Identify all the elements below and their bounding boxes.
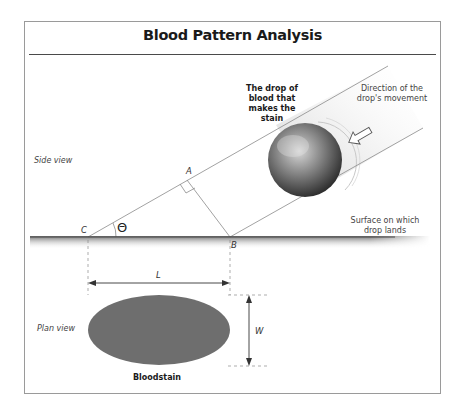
point-b-label: B: [231, 240, 237, 250]
width-dimension-arrow: [246, 295, 252, 366]
surface-label-line-2: drop lands: [345, 226, 425, 236]
sphere-highlight: [277, 135, 309, 157]
length-dimension-arrow: [88, 280, 230, 286]
drop-label-line-1: The drop of: [241, 84, 303, 94]
blood-drop-sphere: [268, 123, 342, 197]
drop-label-line-2: blood that: [241, 94, 303, 104]
surface-description: Surface on which drop lands: [345, 216, 425, 236]
direction-label-line-2: drop's movement: [352, 94, 432, 104]
bloodstain-ellipse: [88, 295, 230, 365]
drop-description: The drop of blood that makes the stain: [241, 84, 303, 124]
angle-theta-arc: [113, 223, 116, 237]
plan-view-label: Plan view: [37, 324, 75, 333]
angle-theta-label: Θ: [117, 220, 127, 235]
width-label: W: [255, 326, 263, 336]
point-a-label: A: [186, 166, 192, 176]
direction-description: Direction of the drop's movement: [352, 84, 432, 104]
drop-label-line-3: makes the: [241, 104, 303, 114]
right-angle-mark: [180, 184, 195, 193]
drop-label-line-4: stain: [241, 114, 303, 124]
point-c-label: C: [81, 225, 87, 235]
diagram-artwork: [0, 0, 464, 417]
bloodstain-label: Bloodstain: [133, 373, 181, 382]
surface-label-line-1: Surface on which: [345, 216, 425, 226]
direction-label-line-1: Direction of the: [352, 84, 432, 94]
side-view-label: Side view: [34, 156, 72, 165]
length-label: L: [156, 270, 161, 280]
